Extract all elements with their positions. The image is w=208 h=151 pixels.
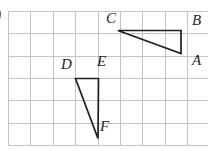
vertex-label-f: F xyxy=(100,119,109,134)
vertex-label-c: C xyxy=(106,11,116,26)
triangle-abc xyxy=(118,31,181,54)
geometry-figure: ) C B A D E F xyxy=(0,0,208,151)
vertex-label-a: A xyxy=(192,53,201,68)
vertex-label-d: D xyxy=(61,57,72,72)
vertex-label-b: B xyxy=(192,13,201,28)
triangle-def xyxy=(76,79,99,139)
vertex-label-e: E xyxy=(97,54,106,69)
